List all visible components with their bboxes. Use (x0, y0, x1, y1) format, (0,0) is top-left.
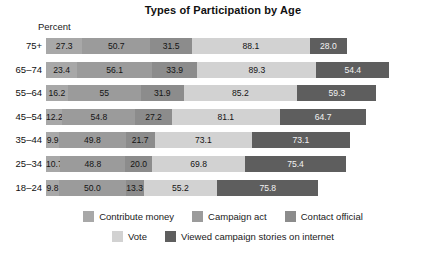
legend-swatch-icon (285, 211, 296, 222)
bar-segment: 56.1 (77, 62, 152, 78)
row-label-45-54: 45–54 (0, 109, 42, 125)
bar-segment: 59.3 (297, 85, 376, 101)
bar-segment: 64.7 (280, 109, 366, 125)
bar-segment: 55 (68, 85, 141, 101)
legend-label: Contribute money (99, 211, 174, 222)
legend-item[interactable]: Contribute money (83, 211, 174, 222)
legend-item[interactable]: Contact official (285, 211, 363, 222)
legend-swatch-icon (165, 231, 176, 242)
bar-row: 18–249.850.013.355.275.8 (0, 180, 446, 196)
legend-item[interactable]: Vote (112, 231, 147, 242)
bar-segment: 49.8 (59, 132, 125, 148)
stacked-bar: 9.850.013.355.275.8 (46, 180, 318, 196)
legend-row-1: Contribute moneyCampaign actContact offi… (0, 211, 446, 226)
bar-segment: 85.2 (184, 85, 298, 101)
bar-segment: 33.9 (152, 62, 197, 78)
row-label-55-64: 55–64 (0, 85, 42, 101)
stacked-bar: 9.949.821.773.173.1 (46, 132, 350, 148)
stacked-bar: 16.25531.985.259.3 (46, 85, 376, 101)
bar-segment: 31.5 (150, 38, 192, 54)
legend-swatch-icon (83, 211, 94, 222)
bar-segment: 50.0 (59, 180, 126, 196)
bar-segment: 89.3 (197, 62, 316, 78)
bar-segment: 73.1 (252, 132, 350, 148)
legend-item[interactable]: Campaign act (192, 211, 267, 222)
bar-segment: 69.8 (152, 156, 245, 172)
bar-segment: 9.9 (46, 132, 59, 148)
row-label-35-44: 35–44 (0, 132, 42, 148)
chart-title: Types of Participation by Age (0, 4, 446, 16)
bar-segment: 81.1 (172, 109, 280, 125)
stacked-bar: 12.254.827.281.164.7 (46, 109, 366, 125)
bar-row: 55–6416.25531.985.259.3 (0, 85, 446, 101)
bar-segment: 28.0 (310, 38, 347, 54)
legend-swatch-icon (112, 231, 123, 242)
chart-container: Types of Participation by Age Percent 75… (0, 0, 446, 259)
bar-segment: 27.3 (46, 38, 82, 54)
bar-row: 35–449.949.821.773.173.1 (0, 132, 446, 148)
bar-segment: 50.7 (82, 38, 150, 54)
bar-segment: 54.4 (316, 62, 389, 78)
bar-row: 45–5412.254.827.281.164.7 (0, 109, 446, 125)
stacked-bar: 10.748.820.069.875.4 (46, 156, 346, 172)
plot-area: 75+27.350.731.588.128.065–7423.456.133.9… (0, 38, 446, 206)
bar-segment: 31.9 (141, 85, 184, 101)
bar-segment: 48.8 (60, 156, 125, 172)
bar-segment: 9.8 (46, 180, 59, 196)
legend-label: Vote (128, 231, 147, 242)
bar-segment: 10.7 (46, 156, 60, 172)
chart-legend: Contribute moneyCampaign actContact offi… (0, 209, 446, 259)
bar-row: 75+27.350.731.588.128.0 (0, 38, 446, 54)
bar-segment: 16.2 (46, 85, 68, 101)
row-label-18-24: 18–24 (0, 180, 42, 196)
bar-segment: 88.1 (192, 38, 310, 54)
legend-swatch-icon (192, 211, 203, 222)
stacked-bar: 23.456.133.989.354.4 (46, 62, 389, 78)
row-label-65-74: 65–74 (0, 62, 42, 78)
bar-segment: 54.8 (62, 109, 135, 125)
bar-segment: 27.2 (135, 109, 171, 125)
axis-unit-label: Percent (38, 21, 71, 32)
bar-row: 65–7423.456.133.989.354.4 (0, 62, 446, 78)
legend-row-2: VoteViewed campaign stories on internet (0, 231, 446, 246)
bar-segment: 55.2 (144, 180, 218, 196)
bar-segment: 12.2 (46, 109, 62, 125)
bar-segment: 75.8 (217, 180, 318, 196)
bar-segment: 75.4 (245, 156, 346, 172)
bar-segment: 23.4 (46, 62, 77, 78)
bar-segment: 13.3 (126, 180, 144, 196)
legend-label: Viewed campaign stories on internet (181, 231, 334, 242)
legend-label: Contact official (301, 211, 363, 222)
legend-item[interactable]: Viewed campaign stories on internet (165, 231, 334, 242)
bar-segment: 20.0 (125, 156, 152, 172)
stacked-bar: 27.350.731.588.128.0 (46, 38, 347, 54)
row-label-75-: 75+ (0, 38, 42, 54)
row-label-25-34: 25–34 (0, 156, 42, 172)
bar-row: 25–3410.748.820.069.875.4 (0, 156, 446, 172)
bar-segment: 21.7 (126, 132, 155, 148)
legend-label: Campaign act (208, 211, 267, 222)
bar-segment: 73.1 (155, 132, 253, 148)
